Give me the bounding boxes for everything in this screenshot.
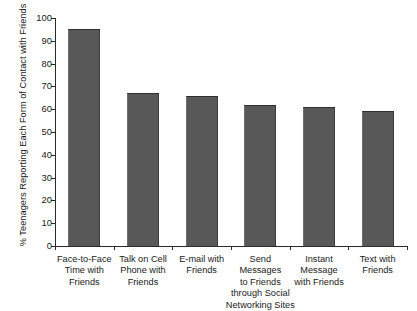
x-tick-mark — [114, 246, 115, 250]
y-tick-label: 40 — [42, 149, 52, 160]
y-tick-label: 100 — [36, 12, 52, 23]
x-tick-mark — [348, 246, 349, 250]
bar — [362, 111, 394, 246]
x-tick-mark — [55, 246, 56, 250]
x-tick-mark — [172, 246, 173, 250]
y-tick-label: 90 — [42, 35, 52, 46]
bar — [303, 107, 335, 246]
y-tick-label: 20 — [42, 194, 52, 205]
y-tick-label: 80 — [42, 58, 52, 69]
x-tick-mark — [407, 246, 408, 250]
x-axis-label: Text with Friends — [341, 254, 414, 277]
bar — [127, 93, 159, 246]
x-tick-mark — [231, 246, 232, 250]
bar — [244, 105, 276, 246]
y-tick-label: 10 — [42, 217, 52, 228]
y-tick-label: 60 — [42, 103, 52, 114]
plot-area: 0102030405060708090100 Face-to-Face Time… — [55, 18, 407, 246]
y-tick-label: 30 — [42, 172, 52, 183]
bar — [68, 29, 100, 246]
y-axis-line — [55, 18, 56, 247]
y-axis-title: % Teenagers Reporting Each Form of Conta… — [18, 0, 28, 251]
y-tick-label: 70 — [42, 80, 52, 91]
y-tick-label: 50 — [42, 126, 52, 137]
x-tick-mark — [290, 246, 291, 250]
y-tick-label: 0 — [47, 240, 52, 251]
bar — [186, 96, 218, 246]
